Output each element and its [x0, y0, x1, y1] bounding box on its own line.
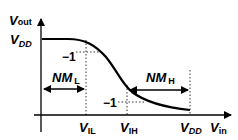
tick-label-vdd: VDD [180, 120, 202, 136]
x-axis-label: Vin [210, 120, 227, 136]
y-axis-label: Vout [9, 13, 32, 28]
vtc-diagram: Vout VDD −1 −1 NML NMH VIL VIH VDD Vin [0, 0, 238, 140]
nm-low-label: NML [52, 70, 80, 86]
nm-high-label: NMH [146, 70, 175, 86]
tick-label-vil: VIL [79, 120, 96, 136]
slope-label-vih: −1 [103, 96, 117, 110]
slope-label-vil: −1 [62, 50, 76, 64]
vdd-level-label: VDD [10, 32, 32, 49]
tick-label-vih: VIH [120, 120, 138, 136]
